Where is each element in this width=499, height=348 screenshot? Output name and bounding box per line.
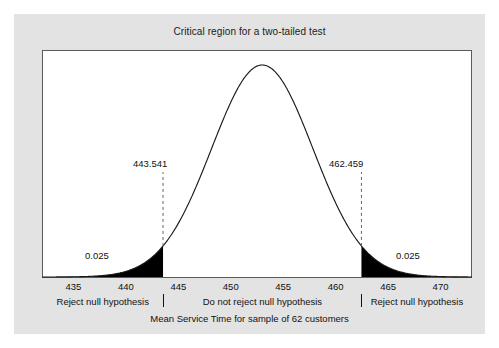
normal-curve-plot — [42, 50, 472, 278]
x-axis-tick-label-470: 470 — [421, 281, 461, 292]
x-axis-tick-label-445: 445 — [158, 281, 198, 292]
x-axis-tick-label-455: 455 — [263, 281, 303, 292]
lower-tail-area-label: 0.025 — [85, 250, 109, 261]
region-separator-lower — [163, 294, 164, 307]
region-label-lower-rejection: Reject null hypothesis — [57, 296, 149, 307]
upper-tail-area-label: 0.025 — [396, 250, 420, 261]
x-axis-tick-marks — [73, 277, 440, 278]
region-separator-upper — [361, 294, 362, 307]
x-axis-tick-label-450: 450 — [211, 281, 251, 292]
normal-distribution-curve — [42, 65, 472, 277]
region-label-upper-rejection: Reject null hypothesis — [371, 296, 463, 307]
x-axis-tick-label-435: 435 — [53, 281, 93, 292]
x-axis-tick-label-460: 460 — [316, 281, 356, 292]
x-axis-title: Mean Service Time for sample of 62 custo… — [14, 313, 485, 324]
plot-content — [42, 65, 472, 278]
region-label-acceptance: Do not reject null hypothesis — [203, 296, 322, 307]
figure-container: Critical region for a two-tailed test 44… — [0, 0, 499, 348]
chart-title: Critical region for a two-tailed test — [14, 26, 485, 37]
upper-critical-value-label: 462.459 — [329, 158, 363, 169]
x-axis-tick-label-440: 440 — [106, 281, 146, 292]
x-axis-tick-label-465: 465 — [368, 281, 408, 292]
lower-critical-value-label: 443.541 — [133, 158, 167, 169]
